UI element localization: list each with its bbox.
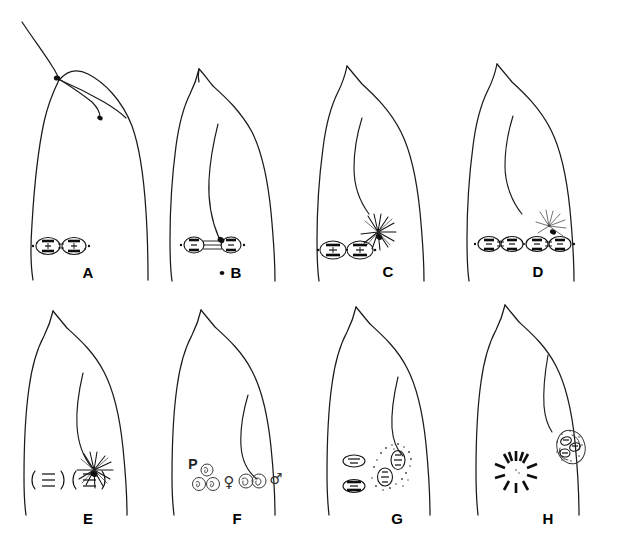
panel-H: H: [476, 305, 589, 527]
sperm-tail-A: [59, 79, 100, 117]
panel-F: P ♀ ♂ F: [172, 310, 283, 527]
panel-label-D: D: [533, 263, 544, 280]
cell-outline-B-apex: [198, 69, 199, 82]
four-group-spindles-D: [474, 237, 575, 252]
sperm-head-A: [97, 115, 104, 121]
panel-D: D: [467, 64, 575, 281]
cell-outline-H: [476, 305, 505, 515]
sperm-tail-H: [544, 355, 552, 432]
polar-body-label-F: P: [188, 456, 197, 472]
panel-B: B: [170, 69, 275, 281]
polar-body-nucleus-G-1: [343, 455, 365, 467]
panel-label-F: F: [232, 510, 241, 527]
fertilization-stages-figure: A: [0, 0, 639, 544]
panel-E: E: [24, 311, 127, 527]
sperm-tail-D: [505, 116, 522, 214]
panel-label-C: C: [383, 263, 394, 280]
panel-C: C: [317, 66, 424, 281]
cell-outline-E-right: [53, 311, 127, 515]
figure-root: A: [0, 0, 639, 544]
sperm-tail-B: [209, 124, 219, 238]
male-symbol-F: ♂: [269, 470, 282, 488]
sperm-aster-E: [77, 452, 113, 488]
panel-label-G: G: [391, 510, 403, 527]
marker-dot-B: [220, 271, 225, 275]
panel-label-B: B: [231, 264, 242, 281]
metaphase-spindle-A: [32, 238, 90, 255]
panel-label-A: A: [83, 264, 94, 281]
cytoplasmic-stippling-G: [371, 443, 412, 491]
cell-outline-F-right: [201, 310, 275, 515]
sperm-entry-spot-A: [54, 75, 60, 80]
panel-A: A: [22, 22, 148, 281]
female-symbol-F: ♀: [224, 473, 235, 491]
cell-outline-G-right: [356, 307, 430, 515]
polar-body-nucleus-E-1: [32, 471, 64, 489]
chromosome-rosette-H: [495, 451, 537, 493]
cell-outline-C-right: [347, 66, 424, 281]
pronuclei-F: [239, 474, 266, 488]
cell-outline-E: [24, 311, 53, 515]
paired-pronuclei-G: [371, 443, 412, 491]
cell-outline-A-right: [59, 71, 148, 280]
sperm-nucleus-D: [549, 228, 557, 235]
sperm-aster-D: [536, 210, 566, 236]
paired-spindles-C: [317, 241, 377, 259]
panel-label-E: E: [83, 510, 93, 527]
panel-G: G: [327, 307, 430, 527]
panel-label-H: H: [543, 510, 554, 527]
chromosome-cluster-H: [553, 427, 589, 467]
cell-outline-C: [317, 66, 347, 281]
polar-body-nucleus-G-2: [343, 480, 365, 493]
sperm-tail-F: [241, 395, 257, 479]
sperm-tail-C: [354, 118, 369, 214]
cell-outline-G: [327, 307, 356, 515]
anaphase-spindle-B: [180, 237, 245, 253]
